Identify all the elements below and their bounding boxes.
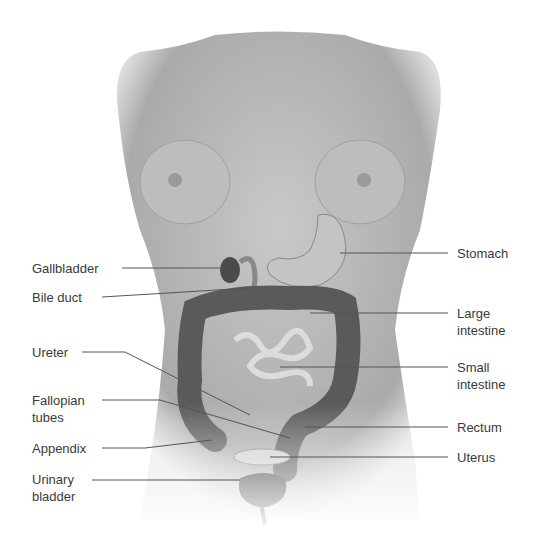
label-appendix: Appendix [32,440,86,457]
label-fallopian-tubes: Fallopian tubes [32,392,85,426]
label-uterus: Uterus [457,449,495,466]
label-bile-duct: Bile duct [32,289,82,306]
label-ureter: Ureter [32,344,68,361]
label-urinary-bladder: Urinary bladder [32,471,75,505]
label-large-intestine: Large intestine [457,305,505,339]
label-gallbladder: Gallbladder [32,260,99,277]
label-small-intestine: Small intestine [457,359,505,393]
label-stomach: Stomach [457,245,508,262]
label-rectum: Rectum [457,419,502,436]
